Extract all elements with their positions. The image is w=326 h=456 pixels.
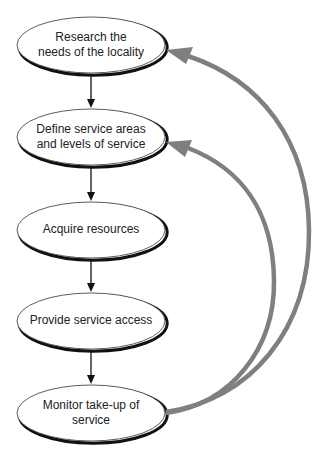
label-line: Monitor take-up of <box>21 398 161 413</box>
label-research: Research the needs of the locality <box>21 30 161 60</box>
label-define: Define service areas and levels of servi… <box>21 122 161 152</box>
label-acquire: Acquire resources <box>21 222 161 237</box>
feedback-monitor-to-define <box>166 148 274 413</box>
label-line: Research the <box>21 30 161 45</box>
feedback-arrows <box>166 47 309 413</box>
label-line: Define service areas <box>21 122 161 137</box>
feedback-monitor-to-research <box>166 56 309 412</box>
label-line: needs of the locality <box>21 45 161 60</box>
label-provide: Provide service access <box>21 313 161 328</box>
label-line: Provide service access <box>21 313 161 328</box>
label-line: and levels of service <box>21 137 161 152</box>
label-line: service <box>21 413 161 428</box>
label-line: Acquire resources <box>21 222 161 237</box>
label-monitor: Monitor take-up of service <box>21 398 161 428</box>
